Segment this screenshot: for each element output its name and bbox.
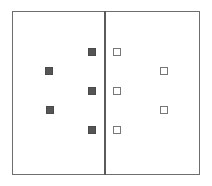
filled-square-icon — [88, 87, 96, 95]
filled-square-icon — [46, 106, 54, 114]
center-divider — [104, 11, 106, 175]
open-square-icon — [113, 87, 121, 95]
open-square-icon — [113, 48, 121, 56]
open-square-icon — [160, 106, 168, 114]
open-square-icon — [113, 126, 121, 134]
filled-square-icon — [45, 67, 53, 75]
filled-square-icon — [88, 48, 96, 56]
filled-square-icon — [88, 126, 96, 134]
open-square-icon — [160, 67, 168, 75]
diagram-frame — [12, 11, 200, 175]
